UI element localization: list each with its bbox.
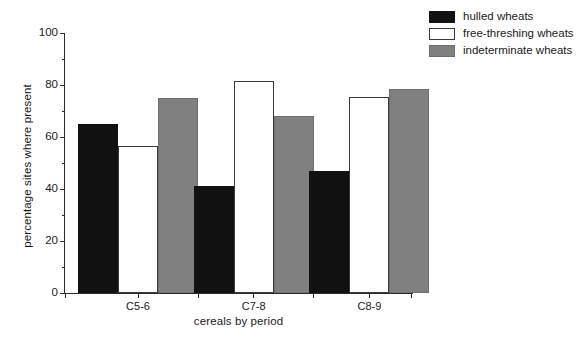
y-axis-minor-tick: [62, 163, 65, 164]
x-axis-tick-label: C7-8: [242, 301, 266, 312]
x-axis-tick: [138, 293, 139, 298]
y-axis-tick-label: 20: [45, 235, 58, 247]
y-axis-tick: [60, 241, 65, 242]
legend: hulled wheatsfree-threshing wheatsindete…: [429, 9, 574, 60]
y-axis-tick-label: 100: [39, 27, 58, 39]
legend-swatch-icon: [429, 45, 455, 57]
bar-C7-8-indeterminate-wheats: [274, 116, 314, 293]
y-axis-tick: [60, 85, 65, 86]
y-axis-tick-label: 40: [45, 183, 58, 195]
bar-C7-8-free-threshing-wheats: [234, 81, 274, 293]
y-axis-minor-tick: [62, 267, 65, 268]
bar-C8-9-hulled-wheats: [309, 171, 349, 293]
bar-C7-8-hulled-wheats: [194, 186, 234, 293]
legend-item-label: free-threshing wheats: [463, 28, 574, 40]
x-axis-tick-label: C8-9: [357, 301, 381, 312]
bar-chart: percentage sites where present 020406080…: [0, 0, 580, 345]
legend-item-label: hulled wheats: [463, 11, 533, 23]
y-axis-tick: [60, 33, 65, 34]
x-axis-tick: [313, 293, 314, 298]
y-axis-tick: [60, 137, 65, 138]
x-axis-line: [64, 293, 413, 294]
bar-C8-9-indeterminate-wheats: [389, 89, 429, 293]
y-axis-minor-tick: [62, 59, 65, 60]
x-axis-tick: [198, 293, 199, 298]
x-axis-tick: [369, 293, 370, 298]
y-axis-minor-tick: [62, 111, 65, 112]
legend-swatch-icon: [429, 11, 455, 23]
x-axis-tick: [253, 293, 254, 298]
y-axis-tick-label: 80: [45, 79, 58, 91]
x-axis-tick-label: C5-6: [126, 301, 150, 312]
bar-C5-6-hulled-wheats: [78, 124, 118, 293]
y-axis-tick-label: 60: [45, 131, 58, 143]
plot-area: 020406080100 C5-6C7-8C8-9: [65, 33, 412, 293]
legend-item: free-threshing wheats: [429, 26, 574, 41]
bar-C5-6-free-threshing-wheats: [118, 146, 158, 293]
legend-item: indeterminate wheats: [429, 43, 574, 58]
legend-item-label: indeterminate wheats: [463, 45, 572, 57]
y-axis-minor-tick: [62, 215, 65, 216]
x-axis-title: cereals by period: [65, 315, 412, 327]
bar-C5-6-indeterminate-wheats: [158, 98, 198, 293]
y-axis-tick: [60, 189, 65, 190]
x-axis-tick: [411, 293, 412, 298]
y-axis-title: percentage sites where present: [21, 46, 33, 286]
bar-C8-9-free-threshing-wheats: [349, 97, 389, 293]
legend-item: hulled wheats: [429, 9, 574, 24]
y-axis-tick-label: 0: [52, 287, 58, 299]
legend-swatch-icon: [429, 28, 455, 40]
x-axis-tick: [65, 293, 66, 298]
